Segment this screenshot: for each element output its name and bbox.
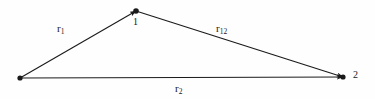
vector-label-r12: r12 bbox=[216, 23, 227, 36]
vertex-1-point-dot bbox=[133, 8, 139, 14]
vector-label-r2-subscript: 2 bbox=[179, 87, 183, 96]
vector-label-r2: r2 bbox=[175, 83, 183, 96]
point-label-2: 2 bbox=[353, 70, 358, 80]
origin-point-dot bbox=[17, 75, 22, 80]
point-label-1: 1 bbox=[133, 17, 138, 27]
vector-triangle-svg bbox=[0, 0, 375, 99]
vector-triangle-figure: r1 r12 r2 1 2 bbox=[0, 0, 375, 99]
vector-label-r1-subscript: 1 bbox=[61, 27, 65, 36]
vector-label-r1: r1 bbox=[57, 23, 65, 36]
vector-r2-line bbox=[20, 77, 343, 78]
vector-r12-line bbox=[136, 11, 343, 77]
vertex-2-point-dot bbox=[340, 74, 345, 79]
vector-r1-line bbox=[20, 11, 136, 78]
vector-label-r12-subscript: 12 bbox=[220, 27, 228, 36]
